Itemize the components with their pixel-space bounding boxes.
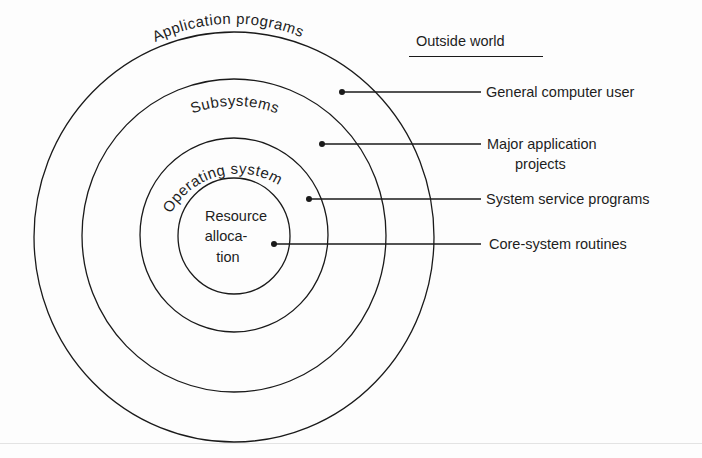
concentric-layers-diagram: Application programs Subsystems Operatin… bbox=[0, 0, 702, 458]
label-resource-line-3: tion bbox=[216, 249, 239, 265]
page-bottom-rule bbox=[0, 443, 702, 444]
leader-dot-major-projects bbox=[319, 141, 325, 147]
label-major-application-line-2: projects bbox=[515, 157, 566, 172]
diagram-canvas: Application programs Subsystems Operatin… bbox=[0, 0, 702, 458]
label-resource-line-1: Resource bbox=[205, 208, 267, 224]
leader-dot-system-service bbox=[306, 196, 312, 202]
label-system-service-programs: System service programs bbox=[486, 192, 650, 207]
label-general-computer-user: General computer user bbox=[486, 85, 634, 100]
label-major-application-line-1: Major application bbox=[487, 137, 597, 152]
label-application-programs: Application programs bbox=[149, 10, 306, 45]
label-core-system-routines: Core-system routines bbox=[489, 237, 627, 252]
outside-world-underline bbox=[409, 56, 543, 57]
outside-world-heading: Outside world bbox=[416, 34, 505, 49]
label-subsystems: Subsystems bbox=[188, 92, 282, 117]
label-resource-line-2: alloca- bbox=[205, 228, 248, 244]
leader-dot-general-user bbox=[339, 89, 345, 95]
leader-dot-core-routines bbox=[271, 241, 277, 247]
